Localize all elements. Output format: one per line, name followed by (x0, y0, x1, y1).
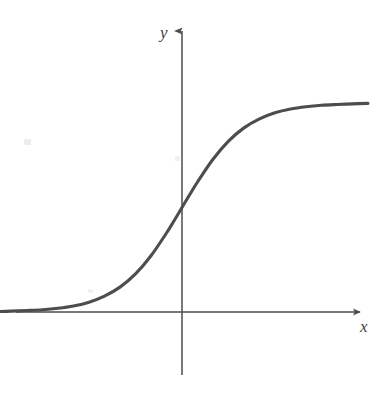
scan-artifact-speck (24, 139, 31, 145)
y-axis-label: y (160, 24, 168, 41)
scan-artifact-speck (175, 156, 180, 161)
sigmoid-curve (0, 103, 368, 311)
plot-canvas (0, 0, 391, 393)
scan-artifact-speck (88, 289, 93, 293)
x-axis-label: x (360, 318, 368, 335)
figure-container: y x (0, 0, 391, 393)
